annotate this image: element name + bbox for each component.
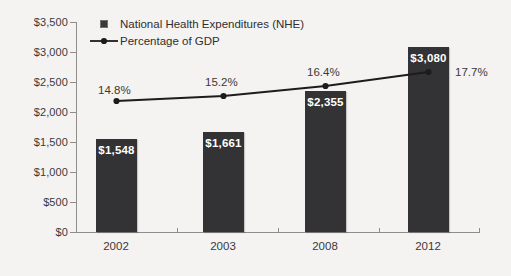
chart-plot-area: $3,500 $3,000 $2,500 $2,000 $1,500 $1,00…: [0, 0, 511, 276]
legend-label-nhe: National Health Expenditures (NHE): [120, 18, 304, 30]
gdp-marker-2012: [425, 69, 431, 75]
legend-line-marker-icon: [88, 36, 120, 46]
gdp-line-path: [117, 72, 429, 101]
gdp-percentage-label-2008: 16.4%: [307, 66, 340, 78]
gdp-percentage-label-2012: 17.7%: [455, 66, 488, 78]
gdp-marker-2008: [322, 83, 328, 89]
gdp-marker-2003: [220, 93, 226, 99]
legend-item-nhe: National Health Expenditures (NHE): [88, 16, 304, 31]
legend-label-gdp: Percentage of GDP: [120, 35, 220, 47]
legend-square-swatch-icon: [88, 20, 120, 28]
gdp-percentage-label-2003: 15.2%: [205, 76, 238, 88]
legend-item-gdp: Percentage of GDP: [88, 33, 304, 48]
chart-legend: National Health Expenditures (NHE) Perce…: [88, 16, 304, 50]
gdp-marker-2002: [113, 98, 119, 104]
chart-screenshot: $3,500 $3,000 $2,500 $2,000 $1,500 $1,00…: [0, 0, 511, 276]
gdp-percentage-label-2002: 14.8%: [98, 84, 131, 96]
